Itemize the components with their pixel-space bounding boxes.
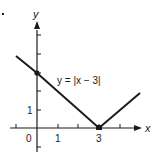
x-tick-label-1: 1: [55, 133, 61, 144]
y-axis: [34, 21, 41, 152]
y-tick-label-1: 1: [27, 105, 33, 116]
y-axis-arrow-icon: [34, 21, 40, 29]
origin-label: 0: [26, 133, 32, 144]
abs-value-curve: [16, 56, 140, 128]
x-tick-label-3: 3: [96, 133, 102, 144]
x-axis-label: x: [144, 122, 151, 134]
stray-dot: [2, 13, 4, 15]
point-y-intercept: [34, 70, 39, 75]
x-axis-arrow-icon: [134, 125, 142, 131]
y-axis-label: y: [32, 8, 40, 20]
absolute-value-graph: y x 0 1 3 1 y = |x − 3|: [0, 0, 156, 158]
x-axis: [10, 124, 142, 131]
equation-label: y = |x − 3|: [57, 75, 101, 86]
point-vertex: [96, 125, 102, 130]
